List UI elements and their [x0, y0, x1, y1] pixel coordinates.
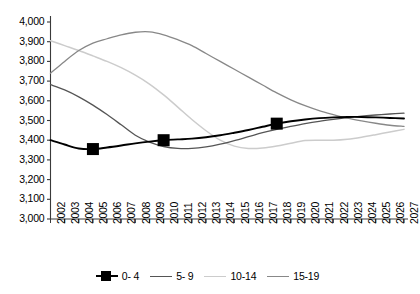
x-axis-tick-label: 2002 — [55, 202, 67, 224]
x-axis-tick-label: 2016 — [253, 202, 265, 224]
x-axis-tick-label: 2006 — [111, 202, 123, 224]
x-axis-tick-label: 2025 — [380, 202, 392, 224]
chart-legend: 0- 45- 910-1415-19 — [0, 264, 415, 288]
series-marker — [158, 134, 170, 146]
legend-item[interactable]: 0- 4 — [96, 270, 139, 282]
y-axis-tick-label: 3,900 — [0, 35, 45, 47]
legend-item[interactable]: 10-14 — [204, 270, 256, 282]
legend-line-swatch — [204, 276, 226, 277]
x-axis-tick-label: 2027 — [408, 202, 420, 224]
x-axis-tick-label: 2023 — [352, 202, 364, 224]
legend-label: 5- 9 — [176, 270, 193, 282]
x-axis-tick-label: 2009 — [154, 202, 166, 224]
y-axis-tick-label: 3,000 — [0, 212, 45, 224]
y-axis-tick-label: 3,500 — [0, 114, 45, 126]
series-line-10-14 — [51, 41, 405, 149]
x-axis-tick-label: 2020 — [309, 202, 321, 224]
y-axis-tick-label: 3,400 — [0, 133, 45, 145]
legend-line-swatch — [150, 276, 172, 277]
y-axis-tick-label: 3,200 — [0, 173, 45, 185]
x-axis-tick-label: 2014 — [224, 202, 236, 224]
legend-line-swatch — [267, 276, 289, 277]
x-axis-tick-label: 2022 — [338, 202, 350, 224]
y-axis-tick-label: 3,700 — [0, 74, 45, 86]
x-axis-tick-label: 2007 — [125, 202, 137, 224]
y-axis-tick-label: 3,600 — [0, 94, 45, 106]
legend-label: 0- 4 — [122, 270, 139, 282]
x-axis-tick-label: 2015 — [239, 202, 251, 224]
x-axis-tick-label: 2005 — [97, 202, 109, 224]
legend-item[interactable]: 5- 9 — [150, 270, 193, 282]
legend-marker-swatch — [96, 271, 118, 282]
x-axis-tick-label: 2011 — [182, 203, 194, 224]
x-axis-tick-label: 2026 — [394, 202, 406, 224]
series-marker — [87, 143, 99, 155]
x-axis-tick-label: 2024 — [366, 202, 378, 224]
x-axis-tick-label: 2010 — [168, 202, 180, 224]
x-axis-tick-label: 2021 — [323, 202, 335, 224]
legend-item[interactable]: 15-19 — [267, 270, 319, 282]
x-axis-tick-label: 2018 — [281, 202, 293, 224]
y-axis-tick-label: 3,800 — [0, 54, 45, 66]
y-axis-tick-label: 3,300 — [0, 153, 45, 165]
x-axis-tick-label: 2019 — [295, 202, 307, 224]
legend-label: 15-19 — [293, 270, 319, 282]
y-axis-tick-label: 3,100 — [0, 192, 45, 204]
x-axis-tick-label: 2004 — [83, 202, 95, 224]
series-marker — [271, 118, 283, 130]
x-axis-tick-label: 2008 — [140, 202, 152, 224]
x-axis-tick-label: 2003 — [69, 202, 81, 224]
legend-label: 10-14 — [230, 270, 256, 282]
x-axis-tick-label: 2013 — [210, 202, 222, 224]
x-axis-tick-label: 2017 — [267, 202, 279, 224]
x-axis-tick-label: 2012 — [196, 202, 208, 224]
y-axis-tick-label: 4,000 — [0, 15, 45, 27]
